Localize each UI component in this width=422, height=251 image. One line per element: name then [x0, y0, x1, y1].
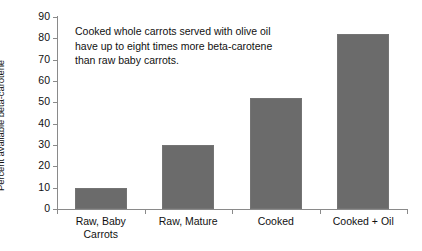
y-axis-tick: 30 — [0, 145, 57, 146]
y-axis-tick: 70 — [0, 60, 57, 61]
y-axis-tick: 90 — [0, 17, 57, 18]
y-axis-tick: 40 — [0, 124, 57, 125]
bar — [162, 145, 214, 209]
y-axis-tick-label: 20 — [38, 159, 50, 172]
y-axis-tick-label: 70 — [38, 53, 50, 66]
y-axis-tick-label: 30 — [38, 138, 50, 151]
x-axis-tick-label: Cooked + Oil — [320, 215, 408, 228]
x-axis-tick — [320, 209, 321, 214]
y-axis-tick-label: 90 — [38, 10, 50, 23]
bar — [75, 188, 127, 209]
x-axis-tick — [145, 209, 146, 214]
y-axis-tick-label: 40 — [38, 117, 50, 130]
bar — [337, 34, 389, 209]
y-axis-tick-label: 50 — [38, 95, 50, 108]
x-axis-tick-label: Cooked — [232, 215, 320, 228]
y-axis-tick-label: 80 — [38, 31, 50, 44]
x-axis-tick — [232, 209, 233, 214]
y-axis-tick-label: 0 — [44, 202, 50, 215]
bar — [250, 98, 302, 209]
x-axis-tick-label: Raw, Mature — [145, 215, 233, 228]
x-axis-tick — [57, 209, 58, 214]
x-axis-tick — [407, 209, 408, 214]
y-axis-tick: 20 — [0, 166, 57, 167]
chart-annotation: Cooked whole carrots served with olive o… — [75, 24, 315, 68]
y-axis-tick-label: 60 — [38, 74, 50, 87]
y-axis-tick: 10 — [0, 188, 57, 189]
y-axis-tick: 60 — [0, 81, 57, 82]
bar-chart: Percent available beta-carotene 01020304… — [0, 0, 422, 251]
x-axis-tick-label: Raw, Baby Carrots — [57, 215, 145, 241]
y-axis-tick: 80 — [0, 38, 57, 39]
y-axis-tick: 0 — [0, 209, 57, 210]
y-axis-tick: 50 — [0, 102, 57, 103]
y-axis-tick-label: 10 — [38, 181, 50, 194]
